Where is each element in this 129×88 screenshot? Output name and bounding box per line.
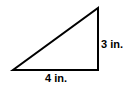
triangle-figure: 3 in. 4 in. bbox=[0, 0, 129, 88]
horizontal-leg-label: 4 in. bbox=[45, 73, 67, 84]
right-triangle-outline bbox=[13, 8, 98, 70]
vertical-leg-label: 3 in. bbox=[101, 39, 123, 50]
